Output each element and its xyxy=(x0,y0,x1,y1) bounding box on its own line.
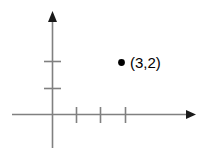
coordinate-plane-figure: (3,2) xyxy=(0,0,205,153)
data-point-marker xyxy=(118,59,125,66)
data-point-label: (3,2) xyxy=(130,55,161,70)
x-axis-arrowhead-icon xyxy=(186,110,196,119)
y-axis-arrowhead-icon xyxy=(48,11,57,22)
coordinate-plane-svg xyxy=(0,0,205,153)
